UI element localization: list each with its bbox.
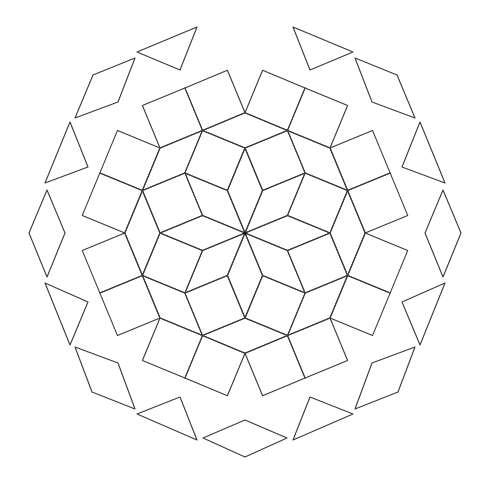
- lower-left-rhombus-piece: [75, 347, 135, 409]
- rhombus-tile: [160, 215, 245, 250]
- square-tile: [330, 276, 390, 336]
- rhombus-tile: [203, 318, 288, 353]
- right-lower-triangle-piece: [402, 283, 445, 345]
- boundary-pieces: [29, 27, 461, 457]
- center-vertex: [243, 231, 246, 234]
- rhombus-tile: [245, 233, 305, 293]
- square-tile: [185, 276, 245, 336]
- rhombus-tile: [185, 233, 245, 293]
- top-left-triangle-piece: [137, 27, 197, 70]
- rhombus-tile: [245, 173, 305, 233]
- square-tile: [185, 336, 245, 396]
- right-upper-triangle-piece: [402, 122, 445, 183]
- square-tile: [100, 276, 160, 336]
- square-tile: [142, 88, 202, 148]
- left-rhombus-piece: [29, 190, 65, 277]
- right-rhombus-piece: [425, 190, 461, 277]
- square-tile: [142, 173, 202, 233]
- square-tile: [82, 233, 142, 293]
- rhombus-tile: [185, 173, 245, 233]
- bottom-left-triangle-piece: [137, 397, 197, 440]
- square-tile: [142, 318, 202, 378]
- bottom-right-triangle-piece: [293, 397, 353, 440]
- square-tile: [245, 276, 305, 336]
- upper-left-rhombus-piece: [75, 58, 135, 118]
- top-right-triangle-piece: [293, 27, 353, 70]
- tiling-canvas: [0, 0, 483, 482]
- square-tile: [185, 130, 245, 190]
- rhombus-tile: [288, 130, 348, 190]
- lower-right-rhombus-piece: [355, 347, 415, 409]
- rhombus-tile: [125, 191, 160, 276]
- bottom-rhombus-piece: [203, 420, 287, 457]
- rhombus-tile: [227, 233, 262, 318]
- square-tile: [142, 233, 202, 293]
- tiling-figure: Octagonal Ammann-Beenker rhombus/square …: [0, 0, 483, 482]
- square-tile: [330, 130, 390, 190]
- upper-right-rhombus-piece: [355, 58, 415, 118]
- square-tile: [348, 173, 408, 233]
- square-tile: [185, 70, 245, 130]
- square-tile: [288, 173, 348, 233]
- square-tile: [245, 130, 305, 190]
- left-lower-triangle-piece: [45, 283, 88, 345]
- square-tile: [348, 233, 408, 293]
- rhombus-tile: [227, 148, 262, 233]
- square-tile: [245, 336, 305, 396]
- rhombus-tile: [330, 191, 365, 276]
- square-tile: [82, 173, 142, 233]
- rhombus-tile: [142, 130, 202, 190]
- square-tile: [288, 318, 348, 378]
- square-tile: [288, 88, 348, 148]
- rhombus-tile: [203, 113, 288, 148]
- left-upper-triangle-piece: [45, 122, 88, 183]
- square-tile: [100, 130, 160, 190]
- square-tile: [245, 70, 305, 130]
- rhombus-tile: [245, 215, 330, 250]
- rhombus-tile: [142, 276, 202, 336]
- square-tile: [288, 233, 348, 293]
- rhombus-tile: [288, 276, 348, 336]
